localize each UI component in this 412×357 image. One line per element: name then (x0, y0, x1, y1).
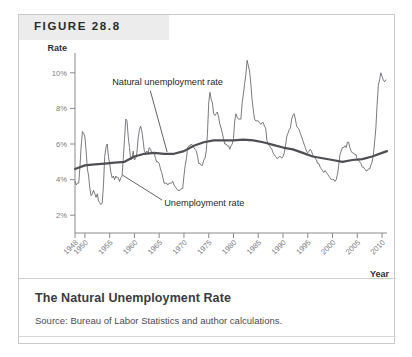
x-axis-tick-label: 1985 (245, 238, 263, 256)
y-axis-tick-label: 8% (56, 104, 67, 113)
y-axis-tick-label: 10% (52, 69, 67, 78)
x-axis-tick-label: 1975 (195, 238, 213, 256)
annotation-leader-line-natural (150, 91, 167, 152)
x-axis-tick-label: 1990 (270, 238, 288, 256)
chart-plot-area: Natural unemployment rateUnemployment ra… (19, 43, 396, 283)
y-axis-title: Rate (47, 43, 67, 53)
x-axis-tick-label: 1980 (220, 238, 238, 256)
figure-source-note: Source: Bureau of Labor Statistics and a… (35, 315, 282, 326)
annotation-natural-rate: Natural unemployment rate (112, 77, 223, 87)
unemployment-rate-chart: Natural unemployment rateUnemployment ra… (19, 43, 396, 283)
figure-number-label: FIGURE 28.8 (34, 20, 121, 32)
x-axis-tick-label: 2000 (319, 238, 337, 256)
x-axis-tick-label: 1970 (171, 238, 189, 256)
annotation-leader-line-unemployment (123, 175, 163, 200)
figure-caption-title: The Natural Unemployment Rate (35, 291, 231, 305)
x-axis-tick-label: 1995 (294, 238, 312, 256)
figure-frame: FIGURE 28.8 Natural unemployment rateUne… (18, 14, 395, 344)
y-axis-tick-label: 6% (56, 140, 67, 149)
x-axis-tick-label: 1960 (121, 238, 139, 256)
caption-bottom-divider (19, 336, 396, 337)
x-axis-tick-label: 2010 (369, 238, 387, 256)
caption-top-divider (19, 278, 396, 279)
y-axis-tick-label: 2% (56, 211, 67, 220)
x-axis-tick-label: 1955 (96, 238, 114, 256)
x-axis-tick-label: 1965 (146, 238, 164, 256)
annotation-unemployment-rate: Unemployment rate (164, 198, 244, 208)
x-axis-tick-label: 2005 (344, 238, 362, 256)
y-axis-tick-label: 4% (56, 175, 67, 184)
